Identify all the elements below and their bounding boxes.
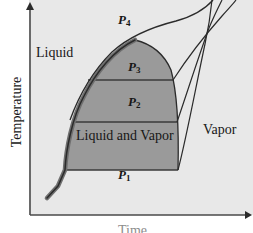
isobar-label-p4: P4	[118, 13, 130, 28]
isobar-label-p1: P1	[118, 168, 130, 183]
isobar-label-p4-symbol: P	[118, 12, 126, 27]
isobar-label-p3: P3	[128, 60, 140, 75]
phase-diagram-canvas	[0, 0, 253, 233]
isobar-label-p2-subscript: 2	[136, 100, 141, 110]
phase-diagram-figure: Temperature Time Liquid Liquid and Vapor…	[0, 0, 253, 233]
isobar-label-p1-symbol: P	[118, 167, 126, 182]
isobar-label-p2-symbol: P	[128, 94, 136, 109]
isobar-label-p3-symbol: P	[128, 59, 136, 74]
isobar-label-p4-subscript: 4	[126, 18, 131, 28]
isobar-label-p1-subscript: 1	[126, 173, 131, 183]
isobar-label-p3-subscript: 3	[136, 65, 141, 75]
x-axis-label: Time	[118, 224, 147, 233]
y-axis-label: Temperature	[10, 64, 24, 160]
region-label-liquid: Liquid	[36, 46, 73, 60]
region-label-vapor: Vapor	[203, 123, 236, 137]
isobar-label-p2: P2	[128, 95, 140, 110]
region-label-liquid-and-vapor: Liquid and Vapor	[76, 129, 174, 143]
